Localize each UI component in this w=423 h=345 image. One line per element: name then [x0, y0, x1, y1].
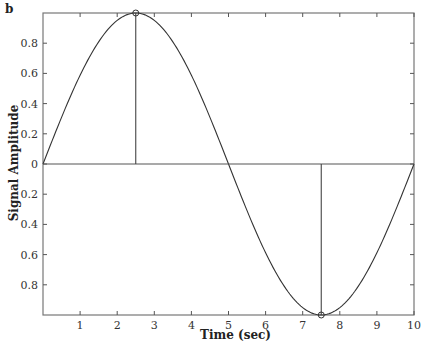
y-tick-label: 0.8 [21, 279, 39, 292]
y-tick-label: 0.6 [21, 67, 39, 80]
y-tick-label: 0.2 [21, 128, 39, 141]
y-tick-label: 0.4 [21, 98, 39, 111]
y-tick-label: 0.8 [21, 37, 39, 50]
y-tick-label: 0 [31, 158, 38, 171]
x-tick-label: 6 [262, 319, 269, 332]
x-tick-label: 4 [188, 319, 195, 332]
x-tick-label: 10 [407, 319, 421, 332]
y-tick-label: 0.6 [21, 249, 39, 262]
annotations [43, 10, 414, 318]
x-tick-label: 3 [151, 319, 158, 332]
x-tick-label: 9 [373, 319, 380, 332]
x-tick-label: 5 [225, 319, 232, 332]
chart-plot-area: 123456789100.80.60.40.200.20.40.60.8 [0, 0, 423, 345]
x-tick-label: 2 [114, 319, 121, 332]
y-tick-label: 0.4 [21, 218, 39, 231]
ticks: 123456789100.80.60.40.200.20.40.60.8 [21, 13, 422, 332]
x-tick-label: 1 [77, 319, 84, 332]
x-tick-label: 7 [299, 319, 306, 332]
x-tick-label: 8 [336, 319, 343, 332]
y-tick-label: 0.2 [21, 188, 39, 201]
